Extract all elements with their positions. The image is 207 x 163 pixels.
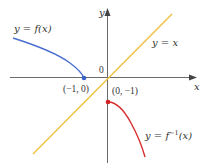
identity-line-label: y = x <box>152 38 178 48</box>
y-axis-label: y <box>99 8 105 18</box>
x-axis-label: x <box>194 82 200 92</box>
f-inverse-label-sup: −1 <box>169 129 179 137</box>
x-axis-arrow-icon <box>189 75 197 81</box>
f-inverse-label-suffix: (x) <box>179 130 192 141</box>
f-inverse-curve <box>108 102 145 157</box>
f-curve-label: y = f(x) <box>14 24 52 34</box>
origin-label: 0 <box>99 66 104 76</box>
f-curve <box>13 38 84 78</box>
point-0-neg1-label: (0, −1) <box>112 87 138 97</box>
point-neg1-0-label: (−1, 0) <box>63 85 89 95</box>
f-inverse-label-prefix: y = f <box>145 130 169 141</box>
y-axis <box>105 8 111 163</box>
f-inverse-curve-label: y = f−1(x) <box>145 130 192 141</box>
point-neg1-0 <box>82 76 87 81</box>
point-0-neg1 <box>106 100 111 105</box>
y-axis-arrow-icon <box>105 8 111 16</box>
inverse-function-graph: y x 0 y = f(x) y = x y = f−1(x) (−1, 0) … <box>0 0 207 163</box>
